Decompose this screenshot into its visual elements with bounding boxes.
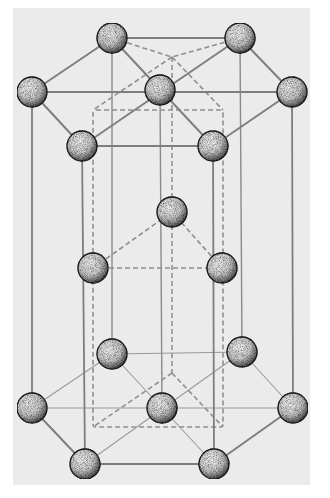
atom-top-5	[277, 77, 307, 107]
atom-top-4	[145, 75, 175, 105]
atom-bottom-3	[17, 393, 47, 423]
atom-bottom-1	[97, 339, 127, 369]
atom-top-7	[198, 131, 228, 161]
atom-middle-2	[78, 253, 108, 283]
atom-bottom-6	[70, 449, 100, 479]
atom-bottom-2	[227, 337, 257, 367]
atom-top-3	[17, 77, 47, 107]
atom-top-1	[97, 23, 127, 53]
hcp-unit-cell-diagram	[0, 0, 330, 498]
atom-top-2	[225, 23, 255, 53]
atom-middle-1	[157, 197, 187, 227]
atom-bottom-5	[278, 393, 308, 423]
atom-bottom-4	[147, 393, 177, 423]
atom-bottom-7	[199, 449, 229, 479]
atom-top-6	[67, 131, 97, 161]
atom-middle-3	[207, 253, 237, 283]
